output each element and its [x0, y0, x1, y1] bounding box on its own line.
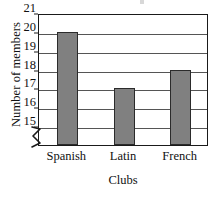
- axis-break-icon: [31, 126, 45, 148]
- bar-french: [170, 70, 191, 145]
- x-axis-title: Clubs: [38, 173, 208, 188]
- x-tick-label-latin: Latin: [110, 150, 136, 163]
- y-tick-mark: [34, 14, 38, 15]
- y-tick-mark: [34, 127, 38, 128]
- y-tick-label: 20: [16, 21, 36, 34]
- x-tick-label-spanish: Spanish: [47, 150, 87, 163]
- cropped-title-artifact: [140, 0, 144, 4]
- y-tick-mark: [34, 108, 38, 109]
- x-tick-label-french: French: [162, 150, 197, 163]
- y-tick-mark: [34, 32, 38, 33]
- y-tick-mark: [34, 70, 38, 71]
- bar-spanish: [57, 32, 78, 145]
- y-tick-label: 21: [16, 2, 36, 15]
- y-tick-label: 18: [16, 58, 36, 71]
- plot-area: [38, 14, 208, 146]
- y-tick-mark: [34, 89, 38, 90]
- y-tick-label: 19: [16, 39, 36, 52]
- y-tick-mark: [34, 51, 38, 52]
- y-tick-label: 16: [16, 96, 36, 109]
- y-tick-label: 17: [16, 77, 36, 90]
- bar-latin: [114, 88, 135, 145]
- x-axis-tick-labels: SpanishLatinFrench: [38, 150, 208, 168]
- bar-chart: Number of members 15161718192021 Spanish…: [0, 0, 217, 197]
- y-axis-tick-labels: 15161718192021: [16, 8, 36, 138]
